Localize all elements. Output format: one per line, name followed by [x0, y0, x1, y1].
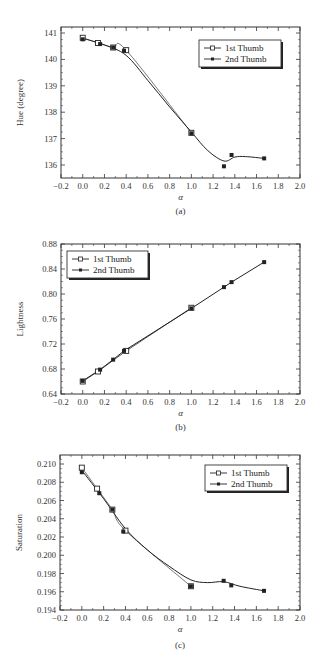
- marker-filled-square: [222, 579, 226, 583]
- legend-marker-filled-square: [217, 483, 220, 486]
- x-axis-title: α: [178, 408, 183, 418]
- y-axis-title: Saturation: [14, 514, 24, 551]
- y-tick-label: 0.194: [37, 605, 57, 615]
- series-line-1st-thumb: [82, 468, 191, 587]
- y-tick-label: 0.72: [42, 339, 57, 349]
- legend-label: 1st Thumb: [225, 43, 264, 53]
- figure: −0.20.00.20.40.60.81.01.21.41.61.82.0136…: [0, 0, 322, 669]
- legend-label: 2nd Thumb: [231, 479, 273, 489]
- x-tick-label: 1.6: [251, 397, 262, 407]
- x-tick-label: 0.8: [164, 613, 175, 623]
- x-tick-label: 1.4: [229, 613, 240, 623]
- figure-caption: (a): [176, 206, 186, 216]
- y-tick-label: 0.200: [37, 550, 56, 560]
- y-tick-label: 0.76: [42, 314, 57, 324]
- marker-filled-square: [222, 164, 226, 168]
- x-tick-label: 2.0: [295, 397, 306, 407]
- y-tick-label: 0.210: [37, 459, 56, 469]
- y-tick-label: 0.208: [37, 477, 56, 487]
- marker-filled-square: [230, 280, 234, 284]
- x-tick-label: 0.0: [77, 613, 88, 623]
- x-tick-label: 1.6: [251, 613, 262, 623]
- y-tick-label: 0.84: [42, 264, 58, 274]
- y-tick-label: 0.88: [42, 239, 57, 249]
- y-tick-label: 0.206: [37, 496, 56, 506]
- x-tick-label: 0.8: [164, 397, 175, 407]
- x-tick-label: 1.4: [230, 397, 241, 407]
- x-tick-label: 1.0: [186, 613, 197, 623]
- x-tick-label: 0.2: [99, 397, 110, 407]
- x-axis-title: α: [178, 192, 183, 202]
- marker-filled-square: [111, 358, 115, 362]
- x-tick-label: 2.0: [295, 613, 306, 623]
- figure-caption: (c): [175, 640, 185, 650]
- marker-filled-square: [122, 349, 126, 353]
- x-axis-title: α: [178, 624, 183, 634]
- y-tick-label: 140: [44, 54, 57, 64]
- x-tick-label: 0.2: [98, 613, 109, 623]
- x-tick-label: 0.4: [121, 397, 132, 407]
- figure-caption: (b): [175, 422, 186, 432]
- legend-label: 2nd Thumb: [93, 265, 135, 275]
- x-tick-label: 1.6: [251, 181, 262, 191]
- x-tick-label: 0.6: [143, 397, 154, 407]
- marker-filled-square: [121, 530, 125, 534]
- y-tick-label: 0.64: [42, 389, 58, 399]
- y-tick-label: 0.202: [37, 532, 56, 542]
- chart-saturation: −0.20.00.20.40.60.81.01.21.41.61.82.00.1…: [14, 455, 305, 650]
- x-tick-label: 1.2: [208, 397, 219, 407]
- y-tick-label: 137: [44, 134, 57, 144]
- legend-marker-filled-square: [211, 58, 214, 61]
- x-tick-label: 1.0: [186, 181, 197, 191]
- x-tick-label: 0.0: [77, 181, 88, 191]
- legend-label: 1st Thumb: [231, 468, 270, 478]
- legend: 1st Thumb2nd Thumb: [199, 40, 283, 69]
- chart-lightness: −0.20.00.20.40.60.81.01.21.41.61.82.00.6…: [15, 239, 305, 432]
- marker-filled-square: [222, 285, 226, 289]
- y-tick-label: 138: [44, 107, 57, 117]
- x-tick-label: 0.6: [142, 613, 153, 623]
- marker-filled-square: [98, 368, 102, 372]
- x-tick-label: 2.0: [295, 181, 306, 191]
- x-tick-label: 0.4: [120, 613, 131, 623]
- chart-hue: −0.20.00.20.40.60.81.01.21.41.61.82.0136…: [15, 27, 305, 216]
- legend-marker-open-square: [217, 471, 221, 475]
- legend: 1st Thumb2nd Thumb: [67, 251, 150, 280]
- y-tick-label: 139: [44, 81, 57, 91]
- legend: 1st Thumb2nd Thumb: [205, 465, 289, 493]
- x-tick-label: 0.2: [99, 181, 110, 191]
- marker-open-square: [79, 465, 84, 470]
- y-tick-label: 136: [44, 160, 57, 170]
- marker-filled-square: [122, 49, 126, 53]
- marker-open-square: [95, 486, 100, 491]
- legend-label: 2nd Thumb: [225, 54, 267, 64]
- marker-filled-square: [111, 46, 115, 50]
- y-tick-label: 0.204: [37, 514, 57, 524]
- marker-filled-square: [262, 156, 266, 160]
- legend-marker-open-square: [211, 46, 215, 50]
- x-tick-label: 0.6: [143, 181, 154, 191]
- x-tick-label: 0.8: [164, 181, 175, 191]
- marker-filled-square: [97, 491, 101, 495]
- legend-label: 1st Thumb: [93, 254, 132, 264]
- series-line-1st-thumb: [83, 38, 192, 133]
- x-tick-label: 1.8: [273, 181, 284, 191]
- y-axis-title: Hue (degree): [15, 79, 25, 126]
- legend-marker-open-square: [79, 257, 83, 261]
- marker-filled-square: [189, 584, 193, 588]
- y-tick-label: 141: [44, 28, 57, 38]
- marker-filled-square: [262, 260, 266, 264]
- x-tick-label: 0.4: [121, 181, 132, 191]
- x-tick-label: −0.2: [53, 181, 68, 191]
- marker-filled-square: [229, 583, 233, 587]
- y-tick-label: 0.198: [37, 569, 56, 579]
- marker-filled-square: [81, 37, 85, 41]
- marker-filled-square: [98, 42, 102, 46]
- y-tick-label: 0.196: [37, 587, 56, 597]
- legend-marker-filled-square: [79, 269, 82, 272]
- marker-filled-square: [189, 306, 193, 310]
- x-tick-label: 1.8: [273, 613, 284, 623]
- marker-filled-square: [80, 470, 84, 474]
- x-tick-label: 0.0: [77, 397, 88, 407]
- x-tick-label: 1.2: [207, 613, 218, 623]
